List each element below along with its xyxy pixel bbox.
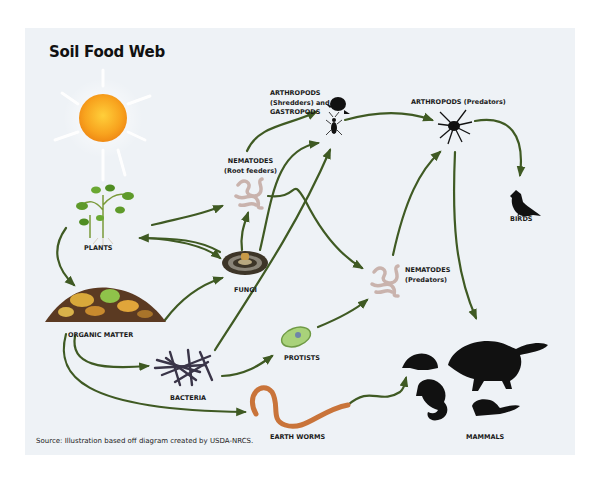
sun-icon	[55, 70, 150, 180]
arrow-predators-to-mammals	[454, 152, 476, 318]
arrow-plants-to-organic-matter	[57, 228, 74, 285]
compost-icon	[45, 288, 166, 322]
label-birds: BIRDS	[510, 215, 532, 225]
label-line: ARTHROPODS	[270, 89, 330, 99]
label-arthropods-shredders: ARTHROPODS (Shredders) and GASTROPODS	[270, 89, 330, 118]
label-organic-matter: ORGANIC MATTER	[68, 331, 133, 341]
arrow-nematodes-root-to-pred	[268, 189, 362, 268]
plant-icon	[76, 185, 134, 247]
source-caption: Source: Illustration based off diagram c…	[36, 437, 253, 445]
label-line: (Root feeders)	[224, 167, 277, 177]
arrow-plants-to-nematodes-root	[152, 206, 222, 225]
arrow-predators-to-birds	[475, 120, 521, 175]
spider-icon	[438, 110, 472, 144]
arrow-bacteria-to-shredders	[215, 150, 330, 350]
label-line: GASTROPODS	[270, 108, 330, 118]
arrow-bacteria-to-protists	[222, 356, 272, 376]
arrow-fungi-to-nematodes-root	[241, 213, 248, 250]
label-line: (Shredders) and	[270, 99, 330, 109]
label-plants: PLANTS	[84, 244, 113, 254]
protist-icon	[279, 323, 313, 350]
mammals-icon	[402, 341, 548, 420]
arrow-nematodes-to-shredders	[247, 112, 316, 151]
label-nematodes-predators: NEMATODES (Predators)	[405, 266, 450, 285]
label-fungi: FUNGI	[234, 286, 257, 296]
bacteria-icon	[155, 350, 212, 385]
label-protists: PROTISTS	[284, 354, 320, 364]
nematode-icon	[236, 179, 262, 208]
earthworm-icon	[252, 388, 348, 427]
arrow-shredders-to-predators	[345, 113, 432, 120]
arrow-protists-to-nematodes-pred	[318, 300, 367, 327]
label-line: NEMATODES	[224, 157, 277, 167]
food-web-graphics	[0, 0, 599, 480]
bird-icon	[510, 190, 541, 217]
arrow-organic-to-fungi	[165, 278, 222, 320]
label-line: NEMATODES	[405, 266, 450, 276]
label-arthropods-predators: ARTHROPODS (Predators)	[411, 98, 506, 108]
label-bacteria: BACTERIA	[170, 394, 206, 404]
label-mammals: MAMMALS	[466, 433, 504, 443]
arrow-organic-to-bacteria	[74, 336, 148, 367]
label-nematodes-root: NEMATODES (Root feeders)	[224, 157, 277, 176]
nematode-icon	[372, 266, 398, 296]
label-earthworms: EARTH WORMS	[270, 433, 325, 443]
arrow-nematodes-pred-to-predators	[393, 152, 440, 255]
label-line: (Predators)	[405, 276, 450, 286]
arrow-earthworms-to-mammals	[348, 378, 406, 405]
diagram-title: Soil Food Web	[49, 43, 165, 61]
mushroom-icon	[222, 251, 268, 275]
